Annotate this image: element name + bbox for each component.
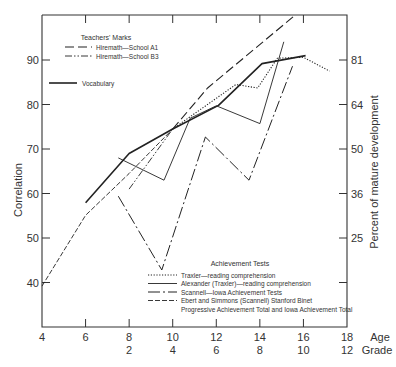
x-tick-label-age: 16 [297, 331, 309, 343]
legend-heading-teachers-marks: Teachers' Marks [81, 34, 132, 41]
y-tick-label: 40 [27, 277, 39, 289]
x-tick-label-age: 12 [210, 331, 222, 343]
x-tick-label-age: 8 [126, 331, 132, 343]
x-axis-age-label: Age [370, 331, 390, 343]
y-tick-label: 70 [27, 143, 39, 155]
legend-entry: Traxler—reading comprehension [181, 272, 276, 280]
x-tick-label-grade: 12 [341, 344, 353, 356]
x-tick-label-grade: 10 [297, 344, 309, 356]
series-line-1 [129, 129, 173, 189]
legend-entry: Progressive Achievement Total and Iowa A… [181, 306, 353, 314]
series-line-6 [42, 129, 173, 286]
series-line-2 [86, 56, 306, 203]
x-tick-label-grade: 6 [213, 344, 219, 356]
y-tick-label: 50 [27, 232, 39, 244]
legend-entry: Hiremath—School B3 [96, 53, 159, 60]
y-right-tick-label: 36 [351, 188, 363, 200]
correlation-chart: 468210412614816101812AgeGrade40506070809… [0, 0, 396, 367]
series-line-0 [173, 16, 295, 130]
x-tick-label-age: 10 [167, 331, 179, 343]
legend-entry: Ebert and Simmons (Scannell) Stanford Bi… [181, 297, 312, 305]
y-right-tick-label: 25 [351, 232, 363, 244]
x-tick-label-age: 18 [341, 331, 353, 343]
y-tick-label: 60 [27, 188, 39, 200]
x-tick-label-grade: 2 [126, 344, 132, 356]
legend-entry: Scannell—Iowa Achievement Tests [181, 289, 283, 296]
y-axis-title: Correlation [12, 163, 24, 217]
y-tick-label: 90 [27, 54, 39, 66]
x-tick-label-age: 14 [254, 331, 266, 343]
x-tick-label-grade: 8 [257, 344, 263, 356]
x-tick-label-age: 6 [83, 331, 89, 343]
x-tick-label-age: 4 [39, 331, 45, 343]
y-tick-label: 80 [27, 99, 39, 111]
x-axis-grade-label: Grade [362, 344, 393, 356]
legend-entry: Alexander (Traxler)—reading comprehensio… [181, 280, 311, 288]
legend-entry: Vocabulary [82, 80, 115, 88]
legends: Teachers' MarksHiremath—School A1Hiremat… [49, 34, 353, 314]
y-right-tick-label: 81 [351, 54, 363, 66]
series-line-3 [173, 57, 330, 129]
y-right-axis-title: Percent of mature development [368, 95, 380, 248]
legend-entry: Hiremath—School A1 [96, 44, 159, 51]
y-right-tick-label: 50 [351, 143, 363, 155]
legend-heading-achievement-tests: Achievement Tests [211, 260, 270, 267]
x-tick-label-grade: 4 [170, 344, 176, 356]
y-right-tick-label: 64 [351, 99, 363, 111]
